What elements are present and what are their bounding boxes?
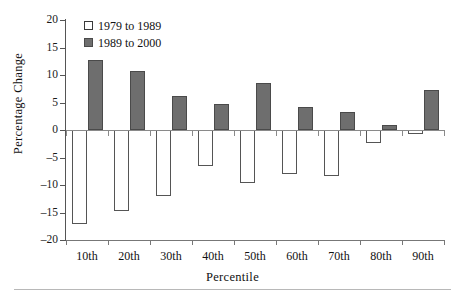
y-tick-label: 5 bbox=[26, 97, 58, 109]
x-tick bbox=[444, 240, 445, 245]
x-tick bbox=[402, 240, 403, 245]
legend-label-series-b: 1989 to 2000 bbox=[98, 35, 161, 51]
bar-1989-2000 bbox=[172, 96, 187, 130]
x-tick bbox=[276, 240, 277, 245]
bar-1989-2000 bbox=[424, 90, 439, 130]
x-tick bbox=[360, 240, 361, 245]
zero-line-tick bbox=[276, 131, 277, 136]
y-tick-label: –10 bbox=[26, 179, 58, 191]
x-tick-label: 50th bbox=[232, 249, 278, 263]
x-tick-label: 10th bbox=[64, 249, 110, 263]
y-tick-label: –15 bbox=[26, 207, 58, 219]
y-tick-label-text: 0 bbox=[32, 124, 58, 136]
x-tick-label: 80th bbox=[358, 249, 404, 263]
y-tick bbox=[60, 20, 66, 21]
y-tick bbox=[60, 213, 66, 214]
open-square-swatch-icon bbox=[84, 21, 93, 30]
bar-1979-1989 bbox=[114, 130, 129, 211]
bar-1989-2000 bbox=[130, 71, 145, 130]
y-tick bbox=[60, 103, 66, 104]
zero-line-tick bbox=[66, 131, 67, 136]
x-axis-title: Percentile bbox=[0, 270, 465, 285]
chart-figure: 20151050–5–10–15–20 10th20th30th40th50th… bbox=[0, 0, 465, 296]
zero-line-tick bbox=[360, 131, 361, 136]
y-tick-label: –5 bbox=[26, 152, 58, 164]
y-tick-label: 0 bbox=[26, 124, 58, 136]
y-tick-label-text: –5 bbox=[32, 152, 58, 164]
x-tick bbox=[192, 240, 193, 245]
x-tick-label: 90th bbox=[400, 249, 446, 263]
bar-1989-2000 bbox=[88, 60, 103, 130]
chart-legend: 1979 to 1989 1989 to 2000 bbox=[84, 17, 161, 51]
x-tick-label: 30th bbox=[148, 249, 194, 263]
y-tick bbox=[60, 48, 66, 49]
bar-1979-1989 bbox=[282, 130, 297, 174]
bar-1989-2000 bbox=[256, 83, 271, 130]
zero-line-tick bbox=[402, 131, 403, 136]
bar-1979-1989 bbox=[324, 130, 339, 176]
y-tick bbox=[60, 158, 66, 159]
bar-1979-1989 bbox=[156, 130, 171, 196]
bar-1979-1989 bbox=[240, 130, 255, 183]
y-tick-label: 15 bbox=[26, 42, 58, 54]
zero-line-tick bbox=[108, 131, 109, 136]
x-tick bbox=[66, 240, 67, 245]
zero-line-tick bbox=[150, 131, 151, 136]
filled-square-swatch-icon bbox=[84, 38, 93, 47]
y-tick-label-text: –15 bbox=[32, 207, 58, 219]
x-tick-label: 20th bbox=[106, 249, 152, 263]
zero-line-tick bbox=[444, 131, 445, 136]
legend-item-series-a: 1979 to 1989 bbox=[84, 17, 161, 34]
x-tick-label: 40th bbox=[190, 249, 236, 263]
zero-line-tick bbox=[192, 131, 193, 136]
y-tick-label-text: –20 bbox=[32, 234, 58, 246]
y-tick-label: –20 bbox=[26, 234, 58, 246]
bar-1979-1989 bbox=[72, 130, 87, 224]
legend-item-series-b: 1989 to 2000 bbox=[84, 34, 161, 51]
x-tick-label: 70th bbox=[316, 249, 362, 263]
y-tick-label-text: –10 bbox=[32, 179, 58, 191]
y-tick-label: 10 bbox=[26, 69, 58, 81]
bar-1989-2000 bbox=[214, 104, 229, 130]
x-tick bbox=[150, 240, 151, 245]
y-axis-title: Percentage Change bbox=[11, 24, 26, 184]
y-tick-label: 20 bbox=[26, 14, 58, 26]
y-tick-label-text: 15 bbox=[32, 42, 58, 54]
x-tick bbox=[108, 240, 109, 245]
bar-1989-2000 bbox=[298, 107, 313, 130]
legend-label-series-a: 1979 to 1989 bbox=[98, 18, 161, 34]
x-tick-label: 60th bbox=[274, 249, 320, 263]
x-axis-line bbox=[65, 240, 445, 241]
bar-1979-1989 bbox=[198, 130, 213, 166]
bar-1989-2000 bbox=[340, 112, 355, 130]
y-tick-label-text: 5 bbox=[32, 97, 58, 109]
x-tick bbox=[234, 240, 235, 245]
footer-divider bbox=[14, 289, 451, 290]
zero-baseline bbox=[66, 130, 445, 131]
y-tick bbox=[60, 185, 66, 186]
y-tick bbox=[60, 75, 66, 76]
zero-line-tick bbox=[234, 131, 235, 136]
y-tick-label-text: 10 bbox=[32, 69, 58, 81]
bar-1979-1989 bbox=[366, 130, 381, 143]
zero-line-tick bbox=[318, 131, 319, 136]
y-tick-label-text: 20 bbox=[32, 14, 58, 26]
x-tick bbox=[318, 240, 319, 245]
